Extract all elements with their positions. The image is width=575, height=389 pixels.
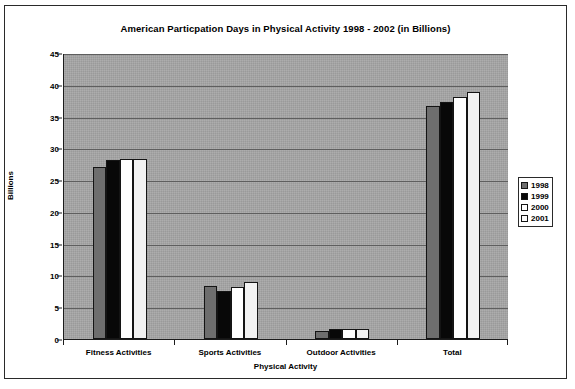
chart-frame: American Particpation Days in Physical A…: [4, 5, 567, 379]
x-axis-category-label-1: Sports Activities: [198, 348, 261, 357]
x-axis-tick-mark: [63, 340, 64, 345]
bar-2000-1[interactable]: [231, 287, 245, 339]
legend-label-2001: 2001: [531, 215, 549, 223]
legend-item-2000[interactable]: 2000: [521, 202, 549, 213]
x-axis-tick-mark: [507, 340, 508, 345]
x-axis-category-label-2: Outdoor Activities: [307, 348, 376, 357]
gridline: [64, 86, 508, 87]
bar-2001-3[interactable]: [467, 92, 481, 339]
y-axis-tick-mark: [57, 276, 62, 277]
x-axis-tick-mark: [397, 340, 398, 345]
bar-2000-0[interactable]: [120, 159, 134, 339]
x-axis-category-label-0: Fitness Activities: [86, 348, 152, 357]
x-axis-category-label-3: Total: [443, 348, 462, 357]
legend-swatch-icon-2001: [521, 215, 528, 222]
y-axis-tick-label: 5: [37, 304, 59, 313]
y-axis-tick-label: 45: [37, 50, 59, 59]
bar-2000-3[interactable]: [453, 97, 467, 339]
y-axis-tick-mark: [57, 308, 62, 309]
legend-swatch-icon-2000: [521, 204, 528, 211]
bar-1998-2[interactable]: [315, 331, 329, 339]
legend-label-2000: 2000: [531, 204, 549, 212]
y-axis-tick-label: 20: [37, 208, 59, 217]
y-axis-tick-label: 10: [37, 272, 59, 281]
y-axis-tick-mark: [57, 117, 62, 118]
bar-1998-1[interactable]: [204, 286, 218, 339]
bar-2001-0[interactable]: [133, 159, 147, 339]
x-axis-tick-mark: [286, 340, 287, 345]
plot-area: [63, 54, 508, 340]
legend[interactable]: 1998199920002001: [518, 177, 553, 227]
y-axis-tick-mark: [57, 54, 62, 55]
y-axis-tick-label: 40: [37, 81, 59, 90]
legend-item-2001[interactable]: 2001: [521, 213, 549, 224]
bar-1999-1[interactable]: [217, 291, 231, 339]
legend-label-1999: 1999: [531, 193, 549, 201]
bar-2001-1[interactable]: [244, 282, 258, 339]
legend-item-1998[interactable]: 1998: [521, 180, 549, 191]
legend-swatch-icon-1999: [521, 193, 528, 200]
bar-2001-2[interactable]: [356, 329, 370, 339]
chart-title: American Particpation Days in Physical A…: [5, 23, 566, 34]
y-axis-tick-label: 0: [37, 336, 59, 345]
bar-1998-0[interactable]: [93, 167, 107, 339]
bar-1998-3[interactable]: [426, 106, 440, 339]
gridline: [64, 54, 508, 55]
bar-1999-0[interactable]: [106, 160, 120, 339]
x-axis-tick-mark: [174, 340, 175, 345]
bar-2000-2[interactable]: [342, 329, 356, 339]
y-axis-tick-labels: 051015202530354045: [33, 54, 59, 340]
bar-1999-3[interactable]: [440, 102, 454, 339]
y-axis-tick-label: 25: [37, 177, 59, 186]
y-axis-title: Billions: [6, 171, 15, 200]
legend-swatch-icon-1998: [521, 182, 528, 189]
y-axis-tick-mark: [57, 149, 62, 150]
bar-1999-2[interactable]: [329, 329, 343, 339]
y-axis-tick-mark: [57, 340, 62, 341]
y-axis-tick-mark: [57, 181, 62, 182]
x-axis-ticks: [63, 340, 508, 346]
y-axis-tick-label: 30: [37, 145, 59, 154]
legend-item-1999[interactable]: 1999: [521, 191, 549, 202]
y-axis-tick-mark: [57, 212, 62, 213]
y-axis-tick-label: 15: [37, 240, 59, 249]
y-axis-tick-mark: [57, 85, 62, 86]
y-axis-tick-label: 35: [37, 113, 59, 122]
x-axis-title: Physical Activity: [5, 362, 566, 371]
y-axis-tick-mark: [57, 244, 62, 245]
legend-label-1998: 1998: [531, 182, 549, 190]
